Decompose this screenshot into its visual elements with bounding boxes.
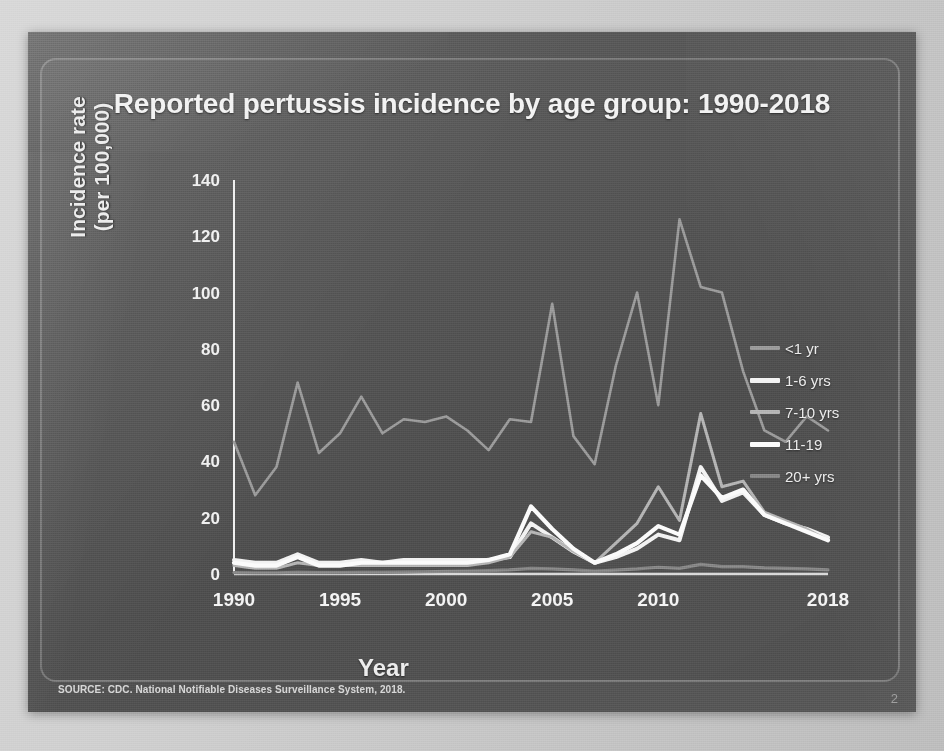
x-axis-tick-labels: 199019952000200520102018 <box>213 589 849 610</box>
x-tick-label: 2005 <box>531 589 574 610</box>
y-axis-title-line1: Incidence rate <box>66 52 90 282</box>
y-tick-label: 120 <box>192 227 220 246</box>
chart-plot-area: 020406080100120140 199019952000200520102… <box>88 162 858 632</box>
y-tick-label: 80 <box>201 340 220 359</box>
legend-item[interactable]: 1-6 yrs <box>750 364 900 396</box>
slide-number: 2 <box>891 691 898 706</box>
y-tick-label: 40 <box>201 452 220 471</box>
legend-item-label: 1-6 yrs <box>785 372 831 389</box>
y-tick-label: 100 <box>192 284 220 303</box>
legend-item[interactable]: 7-10 yrs <box>750 396 900 428</box>
page-title: Reported pertussis incidence by age grou… <box>28 88 916 120</box>
slide-photo-screenshot: Reported pertussis incidence by age grou… <box>0 0 944 751</box>
y-tick-label: 60 <box>201 396 220 415</box>
legend-item[interactable]: <1 yr <box>750 332 900 364</box>
y-tick-label: 20 <box>201 509 220 528</box>
line-chart: 020406080100120140 199019952000200520102… <box>88 162 858 632</box>
legend-item[interactable]: 11-19 <box>750 428 900 460</box>
x-tick-label: 2010 <box>637 589 679 610</box>
series-line <box>234 476 828 566</box>
x-tick-label: 1995 <box>319 589 362 610</box>
y-tick-label: 0 <box>211 565 220 584</box>
legend-swatch-icon <box>750 474 780 478</box>
x-tick-label: 1990 <box>213 589 255 610</box>
x-tick-label: 2000 <box>425 589 467 610</box>
legend-item-label: <1 yr <box>785 340 819 357</box>
legend-item-label: 7-10 yrs <box>785 404 839 421</box>
source-note: SOURCE: CDC. National Notifiable Disease… <box>58 684 405 695</box>
legend-item-label: 11-19 <box>785 436 822 453</box>
legend-swatch-icon <box>750 442 780 447</box>
x-tick-label: 2018 <box>807 589 849 610</box>
chart-legend: <1 yr1-6 yrs7-10 yrs11-1920+ yrs <box>750 332 900 492</box>
series-line <box>234 219 828 495</box>
y-axis-tick-labels: 020406080100120140 <box>192 171 220 584</box>
x-axis-title: Year <box>358 654 409 682</box>
legend-item[interactable]: 20+ yrs <box>750 460 900 492</box>
y-tick-label: 140 <box>192 171 220 190</box>
legend-swatch-icon <box>750 410 780 414</box>
legend-swatch-icon <box>750 346 780 350</box>
chart-series-group <box>234 219 828 572</box>
legend-swatch-icon <box>750 378 780 383</box>
presentation-slide: Reported pertussis incidence by age grou… <box>28 32 916 712</box>
legend-item-label: 20+ yrs <box>785 468 835 485</box>
